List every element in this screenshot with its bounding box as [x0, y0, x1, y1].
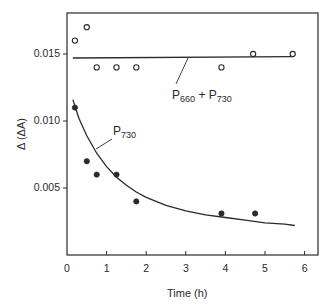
- p660-p730-leader-line: [176, 58, 188, 84]
- filled-circle-point: [252, 211, 257, 216]
- fit-lines: [73, 57, 295, 226]
- annotation-p730-main: P: [113, 124, 121, 138]
- annotation-p730b-main: P: [209, 88, 217, 102]
- filled-circle-point: [94, 172, 99, 177]
- annotation-p730b-sub: 730: [217, 94, 232, 104]
- x-tick-label: 3: [176, 262, 196, 274]
- annotation-p730: P730: [113, 124, 136, 140]
- filled-circle-point: [114, 172, 119, 177]
- y-axis-title: Δ (ΔA): [15, 109, 27, 159]
- open-circle-point: [114, 65, 119, 70]
- p730-decay-curve: [73, 100, 295, 226]
- x-tick-label: 0: [57, 262, 77, 274]
- annotation-plus: +: [195, 88, 209, 102]
- p730-leader-line: [96, 139, 112, 149]
- plot-frame: [67, 13, 318, 255]
- x-tick-label: 6: [295, 262, 315, 274]
- annotation-p660-plus-p730: P660 + P730: [172, 88, 232, 104]
- filled-circle-point: [134, 199, 139, 204]
- open-circle-point: [290, 51, 295, 56]
- filled-circle-point: [219, 211, 224, 216]
- open-circle-point: [134, 65, 139, 70]
- y-tick-label: 0.005: [20, 181, 60, 193]
- x-tick-label: 4: [215, 262, 235, 274]
- data-points: [72, 25, 295, 217]
- open-circle-point: [84, 25, 89, 30]
- filled-circle-point: [72, 105, 77, 110]
- open-circle-point: [219, 65, 224, 70]
- chart-canvas: [0, 0, 332, 306]
- x-axis-ticks: [107, 251, 305, 255]
- open-circle-point: [251, 51, 256, 56]
- open-circle-point: [72, 38, 77, 43]
- open-circle-point: [94, 65, 99, 70]
- y-tick-label: 0.015: [20, 47, 60, 59]
- x-tick-label: 2: [136, 262, 156, 274]
- x-axis-title: Time (h): [167, 287, 208, 299]
- annotation-p660-main: P: [172, 88, 180, 102]
- filled-circle-point: [84, 159, 89, 164]
- x-tick-label: 5: [255, 262, 275, 274]
- annotation-p660-sub: 660: [180, 94, 195, 104]
- annotation-p730-sub: 730: [121, 130, 136, 140]
- p660-p730-fit-line: [73, 57, 293, 58]
- x-tick-label: 1: [97, 262, 117, 274]
